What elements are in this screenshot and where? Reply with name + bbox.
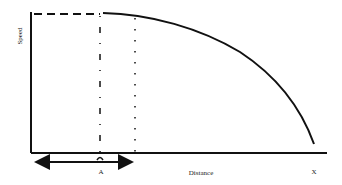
x-axis-label: Distance [189,169,214,177]
speed-curve [103,13,314,144]
caret-mark [97,158,103,161]
marker-x-label: X [311,168,316,176]
speed-distance-diagram: Speed Distance A X [0,0,342,185]
marker-a-label: A [98,168,103,176]
y-axis-label: Speed [16,27,24,45]
